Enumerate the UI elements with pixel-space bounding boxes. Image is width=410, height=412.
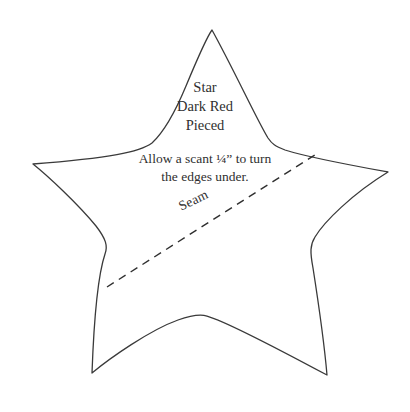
seam-allowance-note-line-1: Allow a scant ¼” to turn	[0, 150, 410, 168]
fabric-label: Star Dark Red Pieced	[0, 78, 410, 135]
fabric-label-line-2: Dark Red	[0, 97, 410, 116]
seam-allowance-note: Allow a scant ¼” to turn the edges under…	[0, 150, 410, 186]
seam-allowance-note-line-2: the edges under.	[0, 168, 410, 186]
fabric-label-line-1: Star	[0, 78, 410, 97]
pattern-sheet: Star Dark Red Pieced Allow a scant ¼” to…	[0, 0, 410, 412]
star-template-drawing	[0, 0, 410, 412]
fabric-label-line-3: Pieced	[0, 116, 410, 135]
